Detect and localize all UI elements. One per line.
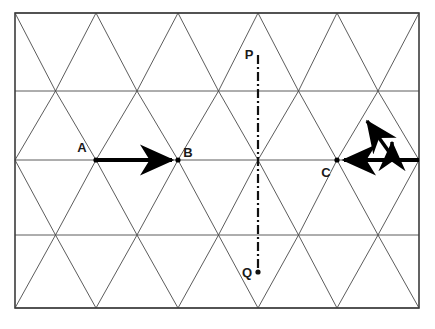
page-background (0, 0, 435, 329)
point-label-c: C (321, 165, 331, 180)
q-endpoint-dot (255, 269, 260, 274)
point-label-a: A (77, 140, 87, 155)
vertex-dot-a (93, 157, 98, 162)
vertex-dot-b (175, 157, 180, 162)
point-label-q: Q (242, 265, 252, 280)
figure-root: A B C P Q (0, 0, 435, 329)
point-label-b: B (183, 145, 192, 160)
lattice-diagram: A B C P Q (0, 0, 435, 329)
point-label-p: P (245, 47, 254, 62)
vertex-dot-c (334, 157, 339, 162)
